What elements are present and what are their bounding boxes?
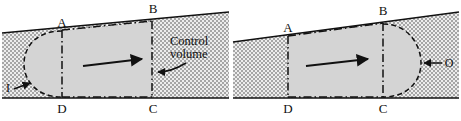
inlet-label: I (6, 81, 10, 95)
corner-label-D: D (57, 101, 66, 116)
left-panel-diagram: A B C D I Control volume (0, 0, 231, 121)
outlet-label: O (445, 56, 454, 70)
corner-label-A: A (57, 15, 67, 30)
control-volume-label-line1: Control (170, 34, 209, 48)
corner-label-C: C (149, 101, 158, 116)
right-panel-diagram: A B C D O (231, 0, 461, 121)
corner-label-A: A (283, 20, 293, 35)
corner-label-C: C (379, 101, 388, 116)
figure-root: A B C D I Control volume (0, 0, 461, 121)
corner-label-B: B (149, 1, 158, 16)
corner-label-D: D (283, 101, 292, 116)
corner-label-B: B (379, 3, 388, 18)
control-volume-label-line2: volume (170, 47, 208, 61)
